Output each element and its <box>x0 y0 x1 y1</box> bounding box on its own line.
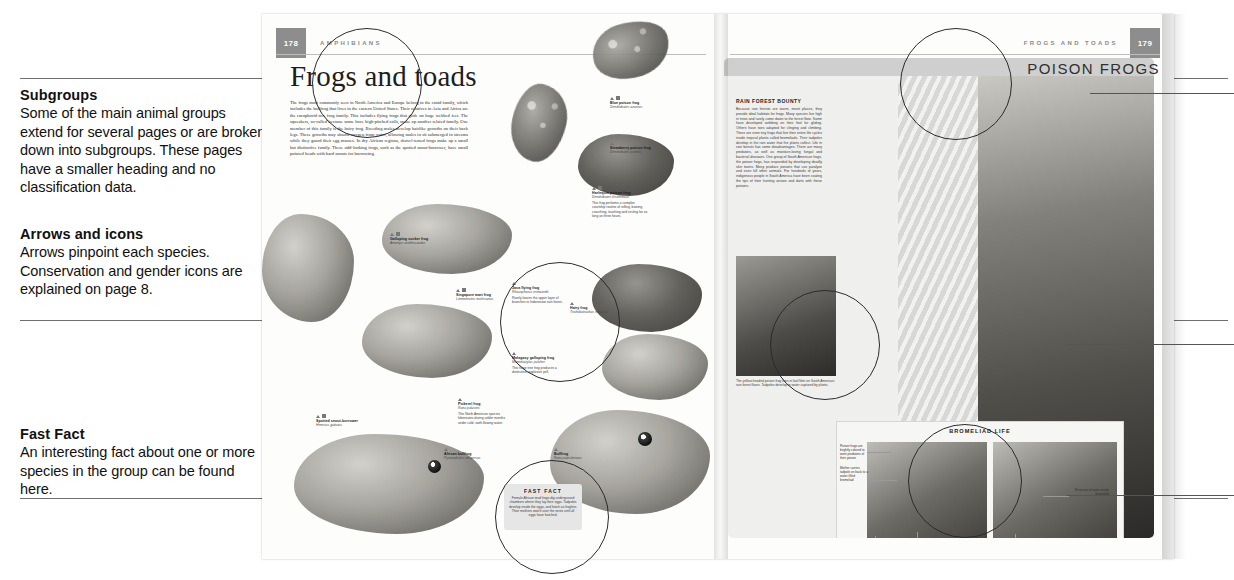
screenshot-canvas: Subgroups Some of the main animal groups… <box>0 0 1234 580</box>
annotation-subgroups-heading: Subgroups <box>20 86 270 104</box>
bromeliad-leader <box>1015 534 1016 538</box>
conservation-icon <box>598 186 602 190</box>
species-caption: Bullfrog Rana catesbeiana <box>554 448 606 461</box>
species-caption: Singapore wart frog Limnonectes malesian… <box>456 288 508 302</box>
species-sci: Hemisus guttatus <box>316 423 368 427</box>
bromeliad-leader <box>917 532 918 538</box>
species-caption: Blue poison frog Dendrobates azureus <box>610 96 662 110</box>
species-caption: Harlequin poison frog Dendrobates histri… <box>592 186 648 218</box>
rain-forest-bounty-subhead: RAIN FOREST BOUNTY <box>736 98 822 104</box>
species-caption: African bullfrog Pyxicephalus adspersus <box>444 448 496 461</box>
arrow-icon <box>456 289 460 292</box>
bromeliad-leader <box>867 480 897 481</box>
conservation-icon <box>396 232 400 236</box>
species-icons <box>592 186 648 190</box>
annotation-fast-fact: Fast Fact An interesting fact about one … <box>20 425 270 499</box>
species-sci: Rana palustris <box>458 406 510 410</box>
arrow-icon <box>316 415 320 418</box>
bromeliad-leader <box>1043 496 1069 497</box>
bullfrog-eye <box>638 432 652 446</box>
rain-forest-bounty-block: RAIN FOREST BOUNTY Because rain forests … <box>736 98 822 189</box>
species-icons <box>554 448 606 451</box>
bromeliad-leader <box>867 452 891 453</box>
poison-frogs-title: POISON FROGS <box>1027 60 1160 77</box>
species-icons <box>316 414 368 418</box>
callout-circle-photo-caption <box>770 290 880 400</box>
conservation-icon <box>616 96 620 100</box>
species-icons <box>444 448 496 451</box>
species-sci: Dendrobates histrionicus <box>592 195 648 199</box>
right-running-head: FROGS AND TOADS <box>1024 40 1118 46</box>
callout-circle-title <box>312 28 422 138</box>
leader-line-arrows <box>1066 344 1234 345</box>
species-caption: Galloping sucker frog Amolops ornithocau… <box>390 232 442 246</box>
arrow-icon <box>592 187 596 190</box>
callout-circle-poison-frogs <box>900 28 1012 140</box>
annotation-arrows-heading: Arrows and icons <box>20 225 270 243</box>
rain-forest-bounty-body: Because rain forests are warm, moist pla… <box>736 107 822 189</box>
species-desc: This frog performs a complex courtship r… <box>592 201 648 218</box>
arrow-icon <box>390 233 394 236</box>
species-sci: Dendrobates azureus <box>610 105 662 109</box>
arrow-icon <box>610 142 614 145</box>
illustration-dart-frog-top <box>585 14 676 89</box>
arrow-icon <box>444 448 448 451</box>
arrow-icon <box>610 97 614 100</box>
book-gutter <box>714 14 728 559</box>
annotation-arrows-body: Arrows pinpoint each species. Conservati… <box>20 243 270 299</box>
illustration-frog-center <box>362 304 492 378</box>
african-bullfrog-eye <box>428 460 441 473</box>
bromeliad-label: Mother carries tadpole on back to a wate… <box>840 466 868 482</box>
illustration-wart-frog <box>262 214 354 322</box>
species-desc: This North American species hibernates d… <box>458 412 510 425</box>
annotation-subgroups-body: Some of the main animal groups extend fo… <box>20 104 270 197</box>
arrow-icon <box>458 398 462 401</box>
callout-circle-bromeliad <box>908 424 1022 538</box>
arrow-icon <box>554 448 558 451</box>
illustration-toad-right <box>602 334 708 400</box>
species-sci: Limnonectes malesianus <box>456 297 508 301</box>
conservation-icon <box>322 414 326 418</box>
species-icons <box>610 96 662 100</box>
annotation-subgroups: Subgroups Some of the main animal groups… <box>20 86 270 197</box>
callout-circle-arrows-icons <box>500 262 620 382</box>
illustration-spotted-frog <box>504 79 573 167</box>
bromeliad-leader <box>875 536 876 538</box>
callout-circle-fast-fact <box>495 460 609 574</box>
species-sci: Dendrobates pumilio <box>610 150 662 154</box>
leader-line-title <box>1090 93 1234 94</box>
species-caption: Strawberry poison frog Dendrobates pumil… <box>610 142 662 155</box>
species-icons <box>390 232 442 236</box>
species-caption: Pickerel frog Rana palustris This North … <box>458 398 510 425</box>
species-icons <box>458 398 510 401</box>
spread-edge-shadow <box>1162 14 1186 559</box>
leader-line-fast-fact <box>1066 495 1234 496</box>
bromeliad-label: Poison frogs are brightly colored to war… <box>840 444 868 460</box>
annotation-fast-fact-heading: Fast Fact <box>20 425 270 443</box>
annotation-fast-fact-body: An interesting fact about one or more sp… <box>20 443 270 499</box>
species-sci: Pyxicephalus adspersus <box>444 456 496 460</box>
species-sci: Amolops ornithocaudus <box>390 241 442 245</box>
species-caption: Spotted snout-burrower Hemisus guttatus <box>316 414 368 428</box>
species-icons <box>456 288 508 292</box>
conservation-icon <box>462 288 466 292</box>
species-icons <box>610 142 662 145</box>
annotation-arrows-and-icons: Arrows and icons Arrows pinpoint each sp… <box>20 225 270 299</box>
